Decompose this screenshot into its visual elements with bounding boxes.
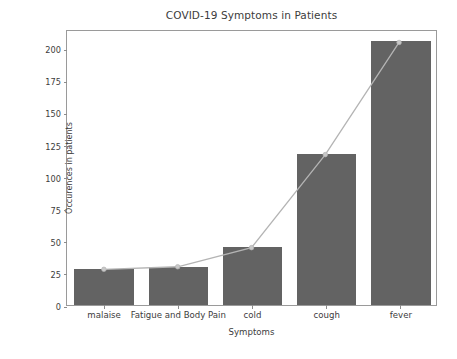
y-tick-mark xyxy=(64,178,68,179)
y-tick-label: 50 xyxy=(51,237,61,249)
plot-inner: 0255075100125150175200 malaiseFatigue an… xyxy=(67,31,436,305)
bar xyxy=(223,247,282,305)
x-tick-mark xyxy=(400,305,401,309)
y-tick-label: 25 xyxy=(51,269,61,281)
chart-figure: COVID-19 Symptoms in Patients Occurences… xyxy=(0,0,457,359)
bar xyxy=(149,267,208,306)
y-tick-mark xyxy=(64,242,68,243)
y-tick-label: 175 xyxy=(45,76,61,88)
x-tick-mark xyxy=(104,305,105,309)
x-tick-label: malaise xyxy=(87,310,120,320)
x-tick-label: cold xyxy=(244,310,262,320)
chart-title: COVID-19 Symptoms in Patients xyxy=(66,9,437,21)
y-tick-mark xyxy=(64,210,68,211)
bar xyxy=(297,154,356,305)
x-tick-label: fever xyxy=(390,310,412,320)
y-tick-label: 125 xyxy=(45,141,61,153)
bar xyxy=(371,41,430,305)
y-tick-mark xyxy=(64,146,68,147)
y-tick-label: 150 xyxy=(45,108,61,120)
y-tick-label: 200 xyxy=(45,44,61,56)
x-axis-label: Symptoms xyxy=(67,327,436,337)
bar xyxy=(74,269,133,305)
y-tick-mark xyxy=(64,82,68,83)
y-tick-label: 100 xyxy=(45,173,61,185)
x-tick-label: Fatigue and Body Pain xyxy=(131,310,226,320)
x-tick-mark xyxy=(178,305,179,309)
y-tick-mark xyxy=(64,307,68,308)
y-tick-mark xyxy=(64,274,68,275)
y-tick-label: 75 xyxy=(51,205,61,217)
x-tick-label: cough xyxy=(314,310,340,320)
y-tick-mark xyxy=(64,50,68,51)
x-tick-mark xyxy=(252,305,253,309)
y-tick-label: 0 xyxy=(56,301,61,313)
y-tick-mark xyxy=(64,114,68,115)
x-tick-mark xyxy=(326,305,327,309)
plot-area: Occurences in patients Symptoms 02550751… xyxy=(66,30,437,306)
